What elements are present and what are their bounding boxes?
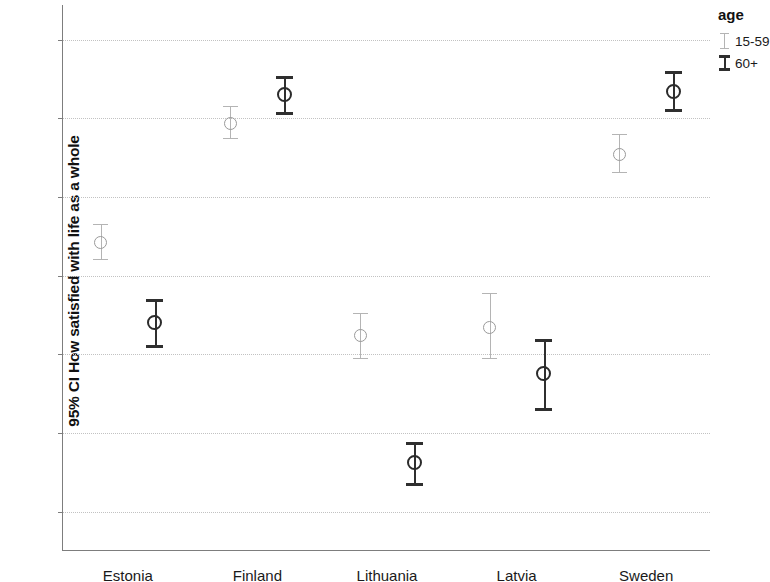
data-point-marker [94,236,107,249]
error-bar-cap-bottom [276,112,293,115]
error-bar-cap-top [93,224,108,225]
error-bar-cap-top [223,106,238,107]
error-bar-cap-top [146,299,163,302]
data-point-marker [407,455,422,470]
y-tick-mark [58,276,63,277]
legend-item[interactable]: 60+ [718,54,767,72]
legend-item[interactable]: 15-59 [718,32,767,50]
error-bar-cap-bottom [406,483,423,486]
error-bar-cap-top [665,71,682,74]
data-point-marker [483,321,496,334]
legend-label: 15-59 [735,34,770,49]
error-bar-cap-top [276,76,293,79]
error-bar-cap-bottom [665,109,682,112]
data-point-marker [147,315,162,330]
data-point-marker [613,148,626,161]
data-point-marker [666,84,681,99]
gridline [63,40,710,41]
data-point-marker [536,366,551,381]
gridline [63,433,710,434]
error-bar-cap-top [612,134,627,135]
legend: age 15-5960+ [718,6,767,76]
x-tick-label: Sweden [576,567,716,582]
data-point-marker [354,329,367,342]
legend-label: 60+ [735,56,758,71]
error-bar-cap-top [406,442,423,445]
x-tick-label: Lithuania [317,567,457,582]
data-point-marker [224,117,237,130]
y-tick-mark [58,40,63,41]
gridline [63,118,710,119]
y-tick-mark [58,197,63,198]
gridline [63,512,710,513]
legend-items: 15-5960+ [718,32,767,72]
error-bar-cap-bottom [535,408,552,411]
error-bar-cap-top [535,339,552,342]
error-bar-cap-bottom [93,259,108,260]
y-tick-mark [58,433,63,434]
x-tick-label: Finland [187,567,327,582]
error-bar-cap-top [482,293,497,294]
error-bar-cap-bottom [146,345,163,348]
gridline [63,276,710,277]
error-bar-cap-bottom [482,358,497,359]
y-tick-mark [58,354,63,355]
error-bar-cap-bottom [353,358,368,359]
error-bar-cap-bottom [612,172,627,173]
error-bar-cap-bottom [223,138,238,139]
y-tick-mark [58,118,63,119]
legend-title: age [718,6,767,23]
plot-area: 8,58,07,57,06,56,05,5 EstoniaFinlandLith… [62,5,710,551]
gridline [63,354,710,355]
x-tick-label: Latvia [447,567,587,582]
legend-key-icon [718,32,731,50]
gridline [63,197,710,198]
error-bar-cap-top [353,313,368,314]
data-point-marker [277,87,292,102]
legend-key-icon [718,54,731,72]
x-tick-label: Estonia [58,567,198,582]
y-tick-mark [58,512,63,513]
